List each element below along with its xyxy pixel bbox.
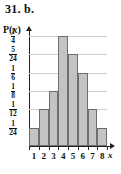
fraction-denominator: 4	[11, 36, 15, 45]
histogram-bar	[68, 54, 78, 146]
x-axis-tick-mark	[88, 147, 89, 150]
y-axis-tick-label: 16	[0, 65, 26, 82]
x-axis-arrow-icon	[110, 143, 115, 149]
histogram-bar	[78, 73, 88, 146]
probability-histogram-figure: 31.b. P(x) 124112181652414 12345678 x	[0, 0, 121, 174]
fraction-denominator: 8	[11, 91, 15, 100]
fraction-numerator: 1	[11, 28, 15, 36]
x-axis-tick-mark	[78, 147, 79, 150]
x-axis-title: x	[108, 150, 113, 160]
fraction-denominator: 6	[11, 73, 15, 82]
plot-area	[29, 36, 107, 146]
y-axis-tick-label: 14	[0, 28, 26, 45]
histogram-bar	[58, 36, 68, 146]
x-axis-tick-mark	[68, 147, 69, 150]
gridline	[29, 36, 107, 37]
fraction-denominator: 12	[9, 109, 17, 118]
x-axis-tick-mark	[97, 147, 98, 150]
x-axis-tick-mark	[49, 147, 50, 150]
fraction-denominator: 24	[9, 128, 17, 137]
problem-heading: 31.b.	[5, 2, 34, 17]
fraction: 112	[9, 101, 17, 118]
fraction-numerator: 1	[9, 120, 17, 128]
x-axis-tick-mark	[29, 147, 30, 150]
fraction: 18	[11, 83, 15, 100]
y-axis-arrow-icon	[26, 26, 32, 31]
fraction-denominator: 24	[9, 54, 17, 63]
y-axis-tick-label: 124	[0, 120, 26, 137]
x-axis-tick-mark	[58, 147, 59, 150]
histogram-bar	[88, 109, 98, 146]
fraction: 124	[9, 120, 17, 137]
fraction-numerator: 1	[11, 65, 15, 73]
x-axis-line	[29, 146, 111, 147]
fraction: 14	[11, 28, 15, 45]
histogram-bar	[29, 128, 39, 146]
histogram-bar	[97, 128, 107, 146]
fraction: 16	[11, 65, 15, 82]
problem-part: b.	[24, 2, 34, 16]
fraction-numerator: 1	[9, 101, 17, 109]
histogram-bar	[39, 109, 49, 146]
x-axis-tick-mark	[39, 147, 40, 150]
y-axis-tick-label: 112	[0, 101, 26, 118]
y-axis-tick-label: 18	[0, 83, 26, 100]
fraction: 524	[9, 46, 17, 63]
histogram-bar	[49, 91, 59, 146]
problem-number: 31.	[5, 2, 21, 16]
fraction-numerator: 5	[9, 46, 17, 54]
fraction-numerator: 1	[11, 83, 15, 91]
y-axis-tick-label: 524	[0, 46, 26, 63]
